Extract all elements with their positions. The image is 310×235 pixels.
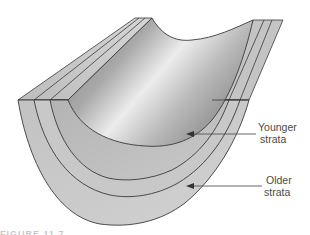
- older-label-line2: strata: [264, 186, 292, 198]
- younger-label-line2: strata: [258, 133, 297, 145]
- older-label-line1: Older: [264, 174, 292, 186]
- figure-caption-fragment: FIGURE 11.7: [0, 229, 65, 235]
- older-strata-label: Older strata: [264, 174, 292, 198]
- syncline-diagram: [0, 0, 310, 235]
- younger-strata-label: Younger strata: [258, 121, 297, 145]
- younger-label-line1: Younger: [258, 121, 297, 133]
